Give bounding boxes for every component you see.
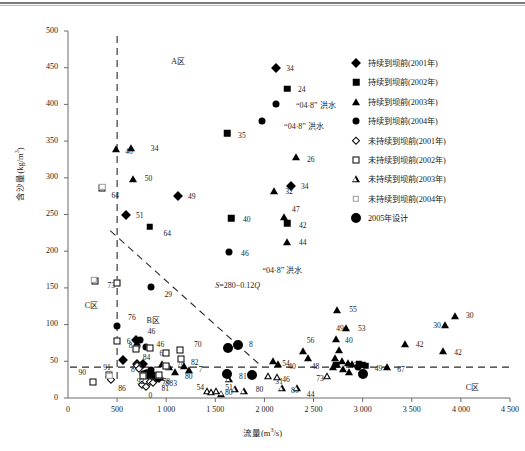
data-point-marker (441, 321, 449, 328)
data-point-label: 55 (349, 304, 357, 313)
data-point-label: 42 (454, 348, 462, 357)
y-tick-label: 350 (28, 136, 58, 145)
data-point-marker (280, 214, 288, 221)
data-point-label: 46 (148, 327, 156, 336)
legend-marker-faint-square (352, 199, 358, 205)
data-point-marker (233, 340, 243, 350)
legend-marker-open-diamond (352, 141, 358, 147)
y-tick-label: 500 (28, 26, 58, 35)
data-point-marker (323, 372, 331, 379)
data-point-label: 30 (466, 310, 474, 319)
data-point-marker (270, 187, 278, 194)
chart-legend: 持续到坝前(2001年)持续到坝前(2002年)持续到坝前(2003年)持续到坝… (352, 54, 522, 229)
legend-item: 持续到坝前(2003年) (352, 93, 522, 112)
data-point-label: 64 (111, 191, 119, 200)
y-tick-label: 400 (28, 99, 58, 108)
legend-item: 2005年设计 (352, 209, 522, 228)
data-point-marker (114, 323, 121, 330)
data-point-label: 8 (249, 340, 253, 349)
legend-marker-filled-square (352, 82, 359, 89)
flood-event-annotation: “04·8” 洪水 (262, 264, 302, 275)
data-point-label: 50 (145, 174, 153, 183)
data-point-marker (89, 378, 96, 385)
data-point-marker (274, 360, 282, 367)
data-point-label: 26 (307, 155, 315, 164)
y-tick-label: 450 (28, 62, 58, 71)
data-point-label: 40 (243, 215, 251, 224)
data-point-marker (439, 347, 447, 354)
y-tick-label: 300 (28, 172, 58, 181)
data-point-marker (114, 279, 121, 286)
data-point-marker (176, 347, 183, 354)
x-tick-label: 2 000 (241, 405, 287, 414)
data-point-label: 51 (136, 211, 144, 220)
data-point-label: 80 (256, 385, 264, 394)
data-point-marker (451, 312, 459, 319)
legend-marker-filled-circle (352, 121, 359, 128)
legend-item: 持续到坝前(2002年) (352, 73, 522, 92)
data-point-label: 34 (301, 181, 309, 190)
data-point-label: 54 (196, 383, 204, 392)
data-point-marker (147, 284, 154, 291)
data-point-marker (146, 224, 153, 231)
data-point-marker (247, 370, 257, 380)
y-tick-label: 200 (28, 246, 58, 255)
legend-label: 持续到坝前(2003年) (368, 95, 438, 107)
data-point-marker (156, 371, 163, 378)
data-point-label: 44 (299, 238, 307, 247)
data-point-marker (345, 368, 353, 375)
data-point-label: 49 (188, 192, 196, 201)
data-point-marker (224, 130, 231, 137)
data-point-label: 46 (157, 339, 165, 348)
data-point-marker (264, 372, 272, 379)
data-point-marker (329, 363, 337, 370)
data-point-label: 42 (416, 340, 424, 349)
x-tick-label: 4 500 (487, 405, 525, 414)
data-point-marker (91, 277, 97, 283)
data-point-marker (259, 117, 266, 124)
data-point-label: 67 (397, 365, 405, 374)
y-axis-title: 含沙量(kg/m3) (13, 109, 25, 239)
data-point-marker (383, 363, 391, 370)
legend-label: 持续到坝前(2004年) (368, 114, 438, 126)
data-point-label: 92 (137, 376, 145, 385)
data-point-marker (226, 248, 233, 255)
legend-marker-big-filled-circle (352, 218, 362, 228)
data-point-marker (293, 384, 301, 391)
data-point-marker (223, 343, 233, 353)
zone-label: B区 (147, 314, 160, 325)
x-tick-label: 0 (45, 405, 91, 414)
x-tick-label: 4 000 (438, 405, 484, 414)
data-point-label: 53 (358, 324, 366, 333)
data-point-label: 46 (241, 248, 249, 257)
data-point-marker (163, 363, 170, 370)
data-point-label: 0 (149, 390, 153, 399)
data-point-label: 29 (165, 290, 173, 299)
x-tick-label: 1 000 (143, 405, 189, 414)
chart-screenshot: 05010015020025030035040045050005001 0001… (0, 0, 525, 451)
data-point-label: 34 (286, 63, 294, 72)
data-point-label: 73 (316, 373, 324, 382)
data-point-label: 46 (282, 375, 290, 384)
data-point-marker (146, 345, 153, 352)
regression-equation-label: S=280−0.12Q (215, 281, 260, 290)
legend-item: 未持续到坝前(2002年) (352, 151, 522, 170)
legend-marker-filled-triangle (352, 102, 360, 109)
x-tick-label: 3 500 (389, 405, 435, 414)
data-point-label: 90 (79, 367, 87, 376)
data-point-marker (358, 369, 368, 379)
data-point-label: 64 (164, 228, 172, 237)
legend-marker-filled-diamond (352, 63, 359, 70)
data-point-label: 91 (103, 362, 111, 371)
data-point-label: 56 (307, 336, 315, 345)
data-point-label: 40 (125, 147, 133, 156)
flood-event-annotation: “04·8” 洪水 (284, 120, 324, 131)
legend-label: 持续到坝前(2002年) (368, 75, 438, 87)
y-tick-label: 0 (28, 393, 58, 402)
legend-marker-open-square (352, 160, 359, 167)
legend-label: 未持续到坝前(2004年) (368, 192, 446, 204)
data-point-label: 24 (298, 84, 306, 93)
legend-item: 持续到坝前(2004年) (352, 112, 522, 131)
data-point-marker (106, 373, 112, 379)
y-tick-label: 250 (28, 209, 58, 218)
